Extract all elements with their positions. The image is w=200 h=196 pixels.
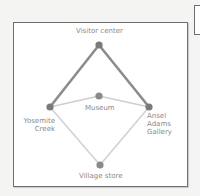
label-yosemite-line2: Creek: [23, 125, 55, 133]
node-museum: [95, 92, 102, 99]
node-ansel-adams-gallery: [145, 103, 152, 110]
label-museum: Museum: [85, 104, 115, 112]
edge-yosemite-village: [50, 107, 100, 165]
label-ansel-line2: Adams: [147, 120, 172, 128]
edge-village-ansel: [100, 107, 149, 165]
label-ansel-line3: Gallery: [147, 128, 172, 136]
label-ansel-adams-gallery: Ansel Adams Gallery: [147, 112, 172, 136]
label-visitor-center: Visitor center: [76, 27, 123, 35]
label-yosemite-creek: Yosemite Creek: [23, 117, 55, 133]
label-ansel-line1: Ansel: [147, 112, 172, 120]
label-village-store: Village store: [79, 172, 122, 180]
label-yosemite-line1: Yosemite: [23, 117, 55, 125]
node-visitor-center: [95, 41, 102, 48]
node-yosemite-creek: [46, 103, 53, 110]
node-village-store: [96, 161, 103, 168]
